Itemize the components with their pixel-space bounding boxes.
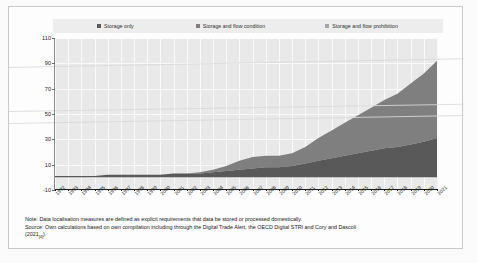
y-axis-tick-label: 70	[45, 86, 51, 92]
y-axis-tick	[52, 89, 55, 90]
y-axis-tick-label: -10	[43, 187, 51, 193]
legend-label: Storage and flow prohibition	[332, 23, 398, 29]
y-axis-tick	[52, 165, 55, 166]
legend-swatch-icon	[97, 24, 101, 28]
figure-notes: Note: Data localisation measures are def…	[25, 216, 465, 242]
y-axis-tick-label: 10	[45, 162, 51, 168]
y-axis-tick-label: 110	[42, 35, 51, 41]
x-axis-labels: 1992199319941995199619971998199920002001…	[55, 192, 437, 216]
y-axis-tick-label: 90	[45, 60, 51, 66]
y-axis-tick-label: 50	[45, 111, 51, 117]
gridline-vertical	[437, 38, 438, 190]
figure-root: Storage only Storage and flow condition …	[0, 0, 477, 263]
y-axis-tick	[52, 114, 55, 115]
y-axis-tick	[52, 139, 55, 140]
legend-swatch-icon	[196, 24, 200, 28]
figure-frame: Storage only Storage and flow condition …	[8, 6, 463, 249]
legend-swatch-icon	[325, 24, 329, 28]
y-axis: 1109070503010-10	[54, 38, 55, 190]
legend-item-storage-only: Storage only	[97, 23, 134, 29]
legend-label: Storage only	[104, 23, 134, 29]
citation-close: ).	[43, 231, 46, 237]
source-text: Source: Own calculations based on own co…	[25, 224, 465, 232]
citation-year: (2021	[25, 231, 39, 237]
legend-item-storage-and-flow-prohibition: Storage and flow prohibition	[325, 23, 398, 29]
y-axis-tick	[52, 38, 55, 39]
y-axis-tick	[52, 63, 55, 64]
note-text: Note: Data localisation measures are def…	[25, 216, 465, 224]
y-axis-tick-label: 30	[45, 136, 51, 142]
chart-legend: Storage only Storage and flow condition …	[53, 19, 443, 33]
source-citation: (2021[4]).	[25, 231, 465, 242]
legend-item-storage-and-flow-condition: Storage and flow condition	[196, 23, 265, 29]
legend-label: Storage and flow condition	[203, 23, 265, 29]
